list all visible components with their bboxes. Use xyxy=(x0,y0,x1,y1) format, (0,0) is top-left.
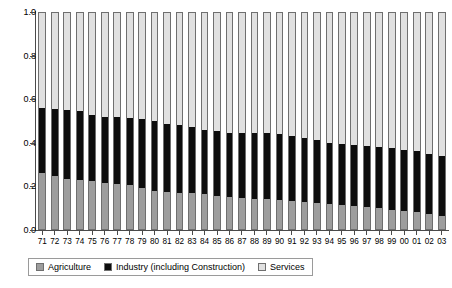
y-axis-tick-mark xyxy=(30,143,35,144)
x-axis-tick-label: 92 xyxy=(298,236,310,248)
bar-segment-industry xyxy=(389,148,395,210)
bar-segment-services xyxy=(64,13,70,110)
x-axis-tick-mark xyxy=(329,231,330,235)
x-axis-tick-label: 85 xyxy=(211,236,223,248)
x-axis-tick-label: 87 xyxy=(236,236,248,248)
bar-slot xyxy=(211,12,223,230)
bar-segment-industry xyxy=(164,124,170,192)
chart-legend: AgricultureIndustry (including Construct… xyxy=(28,258,313,276)
bar-slot xyxy=(336,12,348,230)
stacked-bar[interactable] xyxy=(113,12,121,230)
x-axis-tick-label: 95 xyxy=(336,236,348,248)
stacked-bar[interactable] xyxy=(375,12,383,230)
x-axis-tick-mark xyxy=(416,231,417,235)
stacked-bar[interactable] xyxy=(176,12,184,230)
bar-slot xyxy=(423,12,435,230)
bar-segment-services xyxy=(202,13,208,130)
stacked-bar[interactable] xyxy=(400,12,408,230)
stacked-bar[interactable] xyxy=(425,12,433,230)
bar-segment-agriculture xyxy=(376,208,382,229)
bar-slot xyxy=(273,12,285,230)
x-axis-tick-label: 84 xyxy=(198,236,210,248)
x-axis-tick-mark xyxy=(217,231,218,235)
bar-segment-industry xyxy=(64,110,70,179)
stacked-bar[interactable] xyxy=(313,12,321,230)
stacked-bar[interactable] xyxy=(226,12,234,230)
bar-segment-services xyxy=(227,13,233,133)
stacked-bar[interactable] xyxy=(188,12,196,230)
bar-slot xyxy=(161,12,173,230)
legend-item[interactable]: Industry (including Construction) xyxy=(104,262,245,272)
stacked-bar[interactable] xyxy=(201,12,209,230)
stacked-bar[interactable] xyxy=(238,12,246,230)
legend-item[interactable]: Services xyxy=(258,262,305,272)
bar-slot xyxy=(411,12,423,230)
stacked-bar[interactable] xyxy=(338,12,346,230)
x-axis-tick-mark xyxy=(104,231,105,235)
stacked-bar[interactable] xyxy=(363,12,371,230)
stacked-bar[interactable] xyxy=(63,12,71,230)
stacked-bar[interactable] xyxy=(350,12,358,230)
stacked-bar[interactable] xyxy=(76,12,84,230)
bar-segment-services xyxy=(89,13,95,115)
bar-segment-services xyxy=(389,13,395,148)
stacked-bar[interactable] xyxy=(438,12,446,230)
y-axis-tick-labels: 1.00.80.60.40.20.0 xyxy=(0,0,36,288)
bar-segment-agriculture xyxy=(339,205,345,229)
x-axis-tick-label: 94 xyxy=(323,236,335,248)
x-axis-tick-label: 81 xyxy=(161,236,173,248)
legend-swatch-icon xyxy=(258,263,266,271)
bar-segment-industry xyxy=(39,108,45,173)
x-axis-tick-label: 80 xyxy=(148,236,160,248)
bar-slot xyxy=(223,12,235,230)
bar-slot xyxy=(323,12,335,230)
x-axis-tick-label: 90 xyxy=(273,236,285,248)
legend-item[interactable]: Agriculture xyxy=(36,262,91,272)
bar-segment-industry xyxy=(439,156,445,216)
x-axis-tick-label: 89 xyxy=(261,236,273,248)
x-axis-tick-mark xyxy=(42,231,43,235)
x-axis-tick-mark xyxy=(142,231,143,235)
bar-segment-services xyxy=(376,13,382,147)
bar-segment-agriculture xyxy=(401,211,407,229)
stacked-bar[interactable] xyxy=(326,12,334,230)
bar-segment-industry xyxy=(139,119,145,188)
bar-slot xyxy=(348,12,360,230)
stacked-bar[interactable] xyxy=(301,12,309,230)
bar-segment-agriculture xyxy=(302,202,308,229)
x-axis-tick-label: 99 xyxy=(386,236,398,248)
stacked-bar[interactable] xyxy=(276,12,284,230)
stacked-bar[interactable] xyxy=(288,12,296,230)
x-axis-tick-mark xyxy=(254,231,255,235)
bar-segment-agriculture xyxy=(414,212,420,229)
bar-slot xyxy=(36,12,48,230)
stacked-bar[interactable] xyxy=(51,12,59,230)
stacked-bar[interactable] xyxy=(263,12,271,230)
x-axis-tick-mark xyxy=(154,231,155,235)
stacked-bar[interactable] xyxy=(38,12,46,230)
stacked-bar[interactable] xyxy=(88,12,96,230)
bar-slot xyxy=(436,12,448,230)
stacked-bar[interactable] xyxy=(101,12,109,230)
stacked-bar[interactable] xyxy=(138,12,146,230)
stacked-bar[interactable] xyxy=(126,12,134,230)
bar-slot xyxy=(86,12,98,230)
stacked-bar[interactable] xyxy=(251,12,259,230)
bar-segment-agriculture xyxy=(239,198,245,229)
legend-swatch-icon xyxy=(104,263,112,271)
bar-segment-industry xyxy=(289,136,295,201)
x-axis-tick-mark xyxy=(366,231,367,235)
stacked-bar[interactable] xyxy=(163,12,171,230)
bar-segment-services xyxy=(327,13,333,143)
bar-segment-services xyxy=(252,13,258,133)
stacked-bar[interactable] xyxy=(151,12,159,230)
stacked-bar[interactable] xyxy=(413,12,421,230)
bar-segment-industry xyxy=(376,147,382,209)
bar-segment-industry xyxy=(177,125,183,193)
bar-slot xyxy=(148,12,160,230)
stacked-bar[interactable] xyxy=(388,12,396,230)
bar-segment-industry xyxy=(339,144,345,206)
bar-segment-agriculture xyxy=(277,200,283,229)
stacked-bar[interactable] xyxy=(213,12,221,230)
x-axis-tick-label: 83 xyxy=(186,236,198,248)
